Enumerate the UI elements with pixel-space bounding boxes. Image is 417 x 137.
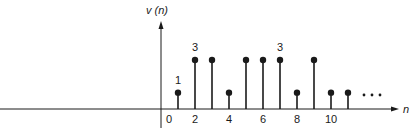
stem-marker xyxy=(277,57,283,63)
value-annotation: 3 xyxy=(192,41,198,53)
stem-marker xyxy=(209,57,215,63)
continuation-dot-icon xyxy=(371,94,374,97)
stem-marker xyxy=(260,57,266,63)
stem-marker xyxy=(226,89,232,95)
x-tick-label: 2 xyxy=(192,113,198,125)
axes xyxy=(0,21,399,128)
x-tick-label: 0 xyxy=(166,113,172,125)
x-tick-label: 4 xyxy=(226,113,232,125)
x-axis-label: n xyxy=(403,103,409,115)
stem-plot: 0246810v (n)n133 xyxy=(0,0,417,137)
stems xyxy=(175,57,351,109)
x-tick-label: 10 xyxy=(325,113,337,125)
labels: 0246810v (n)n133 xyxy=(146,4,409,125)
y-axis-arrow-icon xyxy=(159,21,164,29)
x-tick-label: 8 xyxy=(294,113,300,125)
stem-marker xyxy=(311,57,317,63)
stem-marker xyxy=(243,57,249,63)
stem-marker xyxy=(175,89,181,95)
x-axis-arrow-icon xyxy=(391,107,399,112)
stem-marker xyxy=(294,89,300,95)
stem-marker xyxy=(345,89,351,95)
stem-marker xyxy=(328,89,334,95)
stem-marker xyxy=(192,57,198,63)
continuation-dot-icon xyxy=(363,94,366,97)
value-annotation: 1 xyxy=(175,74,181,86)
continuation-dot-icon xyxy=(379,94,382,97)
y-axis-label: v (n) xyxy=(146,4,168,16)
value-annotation: 3 xyxy=(277,41,283,53)
x-tick-label: 6 xyxy=(260,113,266,125)
